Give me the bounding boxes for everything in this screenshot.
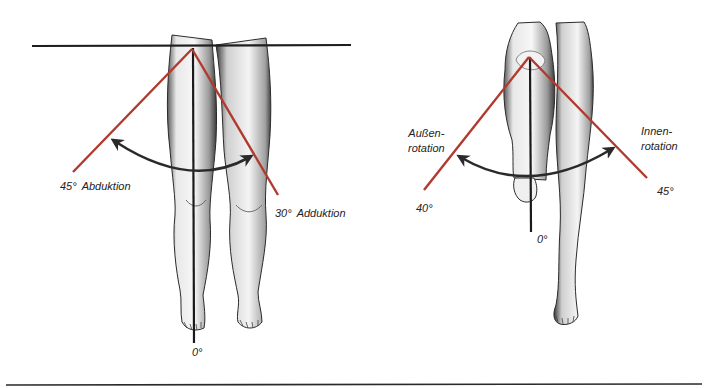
internal-rotation-label: Innen- rotation [641,125,678,152]
left-horizontal-reference-line [32,45,351,46]
abduction-text: Abduktion [82,180,131,192]
external-rotation-label: Außen- rotation [408,127,445,154]
abduction-label: 45°Abduktion [60,180,131,192]
internal-rotation-value: 45° [657,185,674,197]
right-vertical-neutral-line [530,57,531,232]
internal-rotation-line1: Innen- [641,125,678,137]
left-neutral-label: 0° [192,346,203,358]
external-rotation-line2: rotation [408,142,445,154]
external-rotation-value: 40° [416,202,433,214]
left-vertical-neutral-line [193,48,194,343]
adduction-text: Adduktion [297,207,346,219]
adduction-value: 30° [275,207,292,219]
abduction-value: 45° [60,180,77,192]
external-rotation-line1: Außen- [408,127,445,139]
right-figure-rotation [424,22,647,325]
bottom-divider-line [6,384,702,385]
internal-rotation-line2: rotation [641,140,678,152]
range-of-motion-diagram [0,0,707,388]
adduction-label: 30°Adduktion [275,207,346,219]
left-figure-legs-illustration [167,35,270,330]
right-neutral-label: 0° [537,233,548,245]
